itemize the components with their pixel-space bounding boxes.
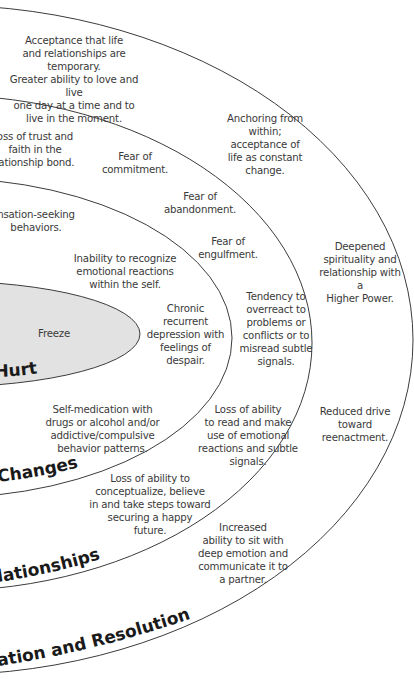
- zone-label-hurt: Hurt: [0, 358, 38, 382]
- zone-label-changes: Changes: [0, 452, 80, 486]
- note-loss-of-trust: oss of trust and faith in the lationship…: [0, 130, 90, 169]
- note-tendency-to-overreact: Tendency to overreact to problems or con…: [236, 290, 316, 368]
- note-loss-of-ability-to-conceptualize: Loss of ability to conceptualize, believ…: [85, 472, 215, 537]
- note-sensation-seeking: nsation-seeking behaviors.: [0, 208, 86, 234]
- resolution-label-text: ation and Resolution: [0, 603, 192, 670]
- changes-label-text: Changes: [0, 452, 80, 486]
- hurt-label-text: Hurt: [0, 358, 38, 382]
- note-chronic-depression: Chronic recurrent depression with feelin…: [143, 302, 228, 367]
- note-reduced-drive: Reduced drive toward reenactment.: [315, 405, 395, 444]
- note-self-medication: Self-medication with drugs or alcohol an…: [40, 403, 165, 455]
- note-loss-of-ability-to-read: Loss of ability to read and make use of …: [198, 403, 298, 468]
- note-deepened-spirituality: Deepened spirituality and relationship w…: [315, 240, 405, 305]
- core-label-freeze: Freeze: [38, 327, 98, 340]
- note-fear-of-commitment: Fear of commitment.: [95, 150, 175, 176]
- zone-label-resolution: ation and Resolution: [0, 603, 192, 670]
- note-acceptance: Acceptance that life and relationships a…: [4, 34, 144, 125]
- note-inability-to-recognize: Inability to recognize emotional reactio…: [70, 252, 180, 291]
- note-anchoring-from-within: Anchoring from within; acceptance of lif…: [210, 112, 320, 177]
- note-fear-of-engulfment: Fear of engulfment.: [188, 235, 268, 261]
- note-fear-of-abandonment: Fear of abandonment.: [160, 190, 240, 216]
